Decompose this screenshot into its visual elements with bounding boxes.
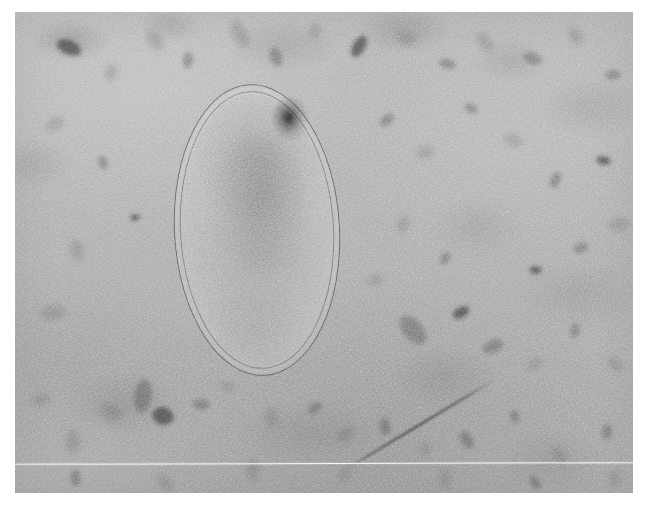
- micrograph-plate: [15, 12, 633, 493]
- film-grain-fine-texture: [15, 12, 633, 493]
- micrograph-page: [0, 0, 649, 514]
